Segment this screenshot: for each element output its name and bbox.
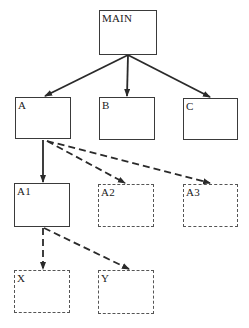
edge-a1-to-y bbox=[44, 228, 129, 269]
node-label: C bbox=[186, 100, 194, 112]
node-c: C bbox=[183, 98, 238, 140]
node-label: X bbox=[17, 272, 25, 284]
node-a1: A1 bbox=[14, 183, 70, 227]
node-y: Y bbox=[98, 270, 154, 314]
node-a: A bbox=[15, 97, 71, 139]
node-main: MAIN bbox=[99, 10, 157, 55]
node-label: A bbox=[18, 99, 26, 111]
node-label: Y bbox=[101, 272, 109, 284]
node-a3: A3 bbox=[183, 184, 238, 227]
node-x: X bbox=[14, 270, 70, 313]
node-b: B bbox=[99, 97, 155, 140]
edge-a-to-a3 bbox=[47, 141, 210, 183]
edge-a-to-a2 bbox=[47, 141, 125, 183]
node-label: MAIN bbox=[102, 12, 132, 24]
edge-main-to-a bbox=[45, 55, 128, 96]
node-label: A1 bbox=[17, 185, 31, 197]
node-label: A2 bbox=[101, 186, 115, 198]
edge-main-to-b bbox=[127, 55, 128, 96]
node-label: A3 bbox=[186, 186, 200, 198]
node-a2: A2 bbox=[98, 184, 154, 227]
edge-main-to-c bbox=[128, 55, 210, 97]
node-label: B bbox=[102, 99, 110, 111]
